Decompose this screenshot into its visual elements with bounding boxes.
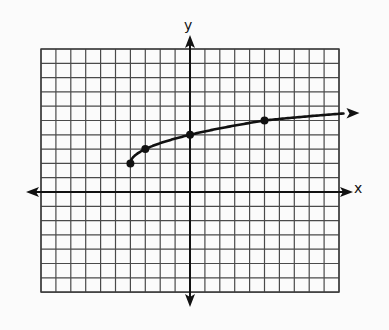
y-axis-label: y [184, 18, 192, 32]
coordinate-plane [0, 0, 389, 330]
x-axis-label: x [354, 181, 362, 195]
data-point [186, 131, 194, 139]
axes [26, 35, 353, 307]
graph-figure: y x [0, 0, 389, 330]
data-point [261, 117, 269, 125]
curve-end-arrow-icon [346, 108, 359, 119]
data-point [141, 145, 149, 153]
data-point [126, 159, 134, 167]
